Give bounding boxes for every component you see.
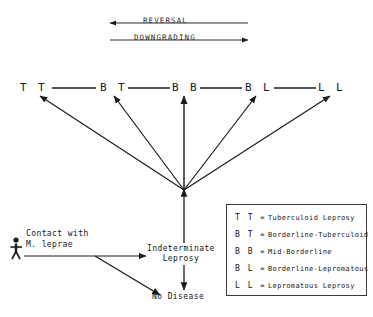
fan-arrow-to-tt [40,96,184,190]
legend-row: B B = Mid-Borderline [235,247,332,256]
spectrum-label-bt: B T [100,81,127,94]
legend-equals: = [257,282,268,290]
legend-row: T T = Tuberculoid Leprosy [235,213,355,222]
legend-row: L L = Lepromatous Leprosy [235,281,355,290]
reversal-label: REVERSAL [143,16,188,25]
legend-row: B T = Borderline-Tuberculoid [235,230,368,239]
legend-equals: = [257,231,268,239]
legend-box: T T = Tuberculoid Leprosy B T = Borderli… [226,204,367,296]
legend-text: Borderline-Lepromatous [268,265,368,273]
legend-equals: = [257,214,268,222]
indeterminate-node-label: Indeterminate Leprosy [147,244,215,264]
person-icon [11,237,23,259]
spectrum-label-ll: L L [318,81,345,94]
legend-equals: = [257,265,268,273]
legend-text: Borderline-Tuberculoid [268,231,368,239]
spectrum-label-bb: B B [172,81,199,94]
fan-arrow-to-bl [184,96,256,190]
legend-code: B T [235,230,257,239]
legend-code: T T [235,213,257,222]
spectrum-label-tt: T T [20,81,47,94]
legend-text: Lepromatous Leprosy [268,282,355,290]
legend-row: B L = Borderline-Lepromatous [235,264,368,273]
fan-arrow-to-bt [114,96,184,190]
legend-code: B L [235,264,257,273]
legend-text: Tuberculoid Leprosy [268,214,355,222]
diagram-canvas: REVERSAL DOWNGRADING T T B T B B B L L L… [0,0,373,317]
no-disease-node-label: No Disease [152,292,204,302]
legend-code: B B [235,247,257,256]
spectrum-label-bl: B L [245,81,272,94]
contact-node-label: Contact with M. leprae [26,229,89,250]
downgrading-label: DOWNGRADING [134,33,196,42]
legend-code: L L [235,281,257,290]
fan-arrow-to-ll [184,96,330,190]
legend-text: Mid-Borderline [268,248,332,256]
legend-equals: = [257,248,268,256]
